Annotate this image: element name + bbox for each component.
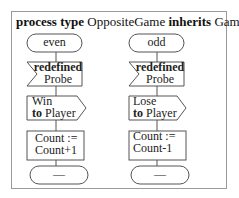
keyword-to: to xyxy=(32,106,42,120)
nextstate-label-right: — xyxy=(131,168,189,181)
output-target: Player xyxy=(146,106,177,120)
keyword-to: to xyxy=(133,106,143,120)
task-label-right: Count :=Count-1 xyxy=(133,130,175,154)
input-label-left: redefinedProbe xyxy=(33,61,83,85)
input-label-right: redefinedProbe xyxy=(135,61,185,85)
task-line-2: Count+1 xyxy=(35,143,77,157)
task-label-left: Count :=Count+1 xyxy=(35,132,77,156)
output-label-right: Loseto Player xyxy=(133,95,177,119)
task-line-2: Count-1 xyxy=(133,141,172,155)
output-target: Player xyxy=(45,106,76,120)
state-label-even: even xyxy=(27,36,82,49)
output-label-left: Winto Player xyxy=(32,95,76,119)
signal-name: Probe xyxy=(44,72,72,86)
nextstate-label-left: — xyxy=(30,168,88,181)
signal-name: Probe xyxy=(146,72,174,86)
state-label-odd: odd xyxy=(129,36,184,49)
